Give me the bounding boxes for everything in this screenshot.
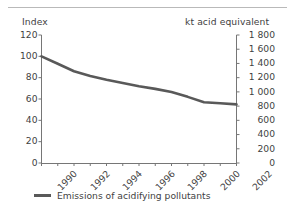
left-tick-label-40: 40: [8, 114, 38, 125]
left-tick-label-60: 60: [8, 93, 38, 104]
right-tick-label-400: 400: [241, 128, 275, 139]
right-tick-label-600: 600: [241, 114, 275, 125]
right-tick-label-1400: 1 400: [241, 57, 275, 68]
right-tick-label-200: 200: [241, 143, 275, 154]
legend-swatch-icon: [34, 194, 51, 197]
left-tick-label-100: 100: [8, 50, 38, 61]
right-tick-label-800: 800: [241, 100, 275, 111]
axis-lines: [42, 35, 237, 164]
right-tick-label-1800: 1 800: [241, 29, 275, 40]
left-tick-label-120: 120: [8, 29, 38, 40]
left-tick-label-20: 20: [8, 135, 38, 146]
right-tick-label-1000: 1 000: [241, 86, 275, 97]
right-tick-label-1600: 1 600: [241, 43, 275, 54]
right-tick-label-0: 0: [241, 157, 275, 168]
right-tick-label-1200: 1 200: [241, 71, 275, 82]
chart-legend: Emissions of acidifying pollutants: [34, 190, 210, 201]
left-tick-label-80: 80: [8, 71, 38, 82]
chart-figure: Index kt acid equivalent 020406080100120…: [0, 0, 295, 209]
left-tick-label-0: 0: [8, 157, 38, 168]
legend-item-label: Emissions of acidifying pollutants: [57, 190, 210, 201]
series-line-emissions-of-acidifying-pollutants: [42, 56, 237, 104]
